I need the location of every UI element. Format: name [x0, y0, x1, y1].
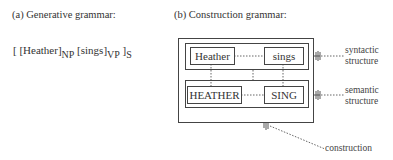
syntactic-label-line2: structure — [345, 56, 379, 67]
syntactic-structure-label: syntactic structure — [345, 45, 379, 67]
syntactic-label-line1: syntactic — [345, 45, 379, 56]
word-box-heather: Heather — [190, 47, 235, 65]
word-box-sing-semantic: SING — [264, 86, 304, 104]
construction-label: construction — [325, 143, 372, 154]
semantic-label-line2: structure — [345, 96, 379, 107]
semantic-label-line1: semantic — [345, 85, 379, 96]
word-box-sings: sings — [264, 47, 304, 65]
semantic-structure-label: semantic structure — [345, 85, 379, 107]
word-box-heather-semantic: HEATHER — [187, 86, 242, 104]
